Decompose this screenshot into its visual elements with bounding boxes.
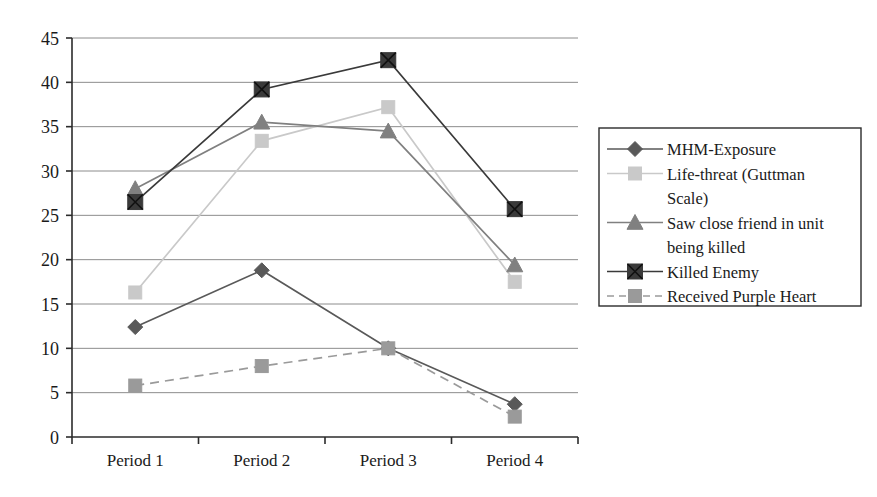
data-point-diamond: [628, 142, 643, 157]
y-axis-tick-labels: 051015202530354045: [41, 29, 59, 448]
chart-canvas: 051015202530354045 Period 1Period 2Perio…: [0, 0, 877, 497]
legend-entry-label[interactable]: Saw close friend in unit: [667, 214, 824, 233]
chart-legend: MHM-ExposureLife-threat (GuttmanScale)Sa…: [599, 128, 861, 306]
data-point-square: [508, 410, 521, 423]
data-point-triangle: [254, 114, 270, 129]
x-axis-category-label: Period 4: [486, 451, 544, 470]
series-line: [135, 270, 515, 404]
x-axis-category-label: Period 1: [107, 451, 164, 470]
y-axis-tick-label: 0: [50, 428, 59, 448]
data-point-square: [508, 275, 521, 288]
data-point-diamond: [254, 263, 269, 278]
data-point-diamond: [128, 320, 143, 335]
series-line: [135, 348, 515, 416]
y-axis-tick-label: 25: [41, 206, 59, 226]
line-chart: 051015202530354045 Period 1Period 2Perio…: [0, 0, 877, 497]
y-axis-tick-label: 10: [41, 339, 59, 359]
data-point-square: [382, 101, 395, 114]
y-axis-tick-label: 45: [41, 29, 59, 49]
series-line: [135, 122, 515, 265]
y-axis-tick-label: 35: [41, 117, 59, 137]
y-axis-tick-label: 20: [41, 250, 59, 270]
data-point-square: [129, 379, 142, 392]
y-axis-tick-label: 15: [41, 295, 59, 315]
y-axis-tick-label: 40: [41, 73, 59, 93]
data-series-layer: [127, 53, 523, 423]
series-line: [135, 107, 515, 292]
data-point-square: [255, 360, 268, 373]
data-point-square: [255, 134, 268, 147]
x-axis-category-labels: Period 1Period 2Period 3Period 4: [107, 451, 544, 470]
legend-entry-label[interactable]: Killed Enemy: [667, 263, 760, 282]
legend-entry-label[interactable]: Received Purple Heart: [667, 287, 817, 306]
axes: [66, 38, 578, 444]
x-axis-category-label: Period 2: [233, 451, 290, 470]
gridlines: [72, 38, 578, 393]
legend-entry-label[interactable]: Scale): [667, 189, 708, 208]
data-point-square: [129, 286, 142, 299]
data-point-square: [629, 290, 642, 303]
x-axis-category-label: Period 3: [360, 451, 417, 470]
series-2: [129, 101, 522, 299]
data-point-triangle: [127, 181, 143, 196]
series-1: [128, 263, 523, 412]
data-point-diamond: [507, 397, 522, 412]
legend-entry-label[interactable]: being killed: [667, 238, 746, 257]
legend-entry-label[interactable]: MHM-Exposure: [667, 140, 776, 159]
series-4: [128, 53, 523, 217]
series-3: [127, 114, 523, 272]
legend-entry-label[interactable]: Life-threat (Guttman: [667, 165, 805, 184]
data-point-square: [629, 167, 642, 180]
series-5: [129, 342, 522, 423]
data-point-square: [382, 342, 395, 355]
y-axis-tick-label: 30: [41, 162, 59, 182]
y-axis-tick-label: 5: [50, 383, 59, 403]
